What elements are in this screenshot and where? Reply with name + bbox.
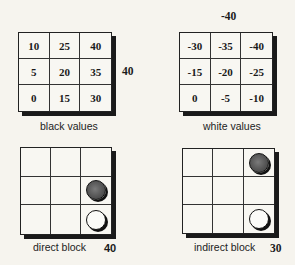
black-value-cell: 20 <box>50 59 81 85</box>
direct-block-caption: direct block <box>33 241 86 253</box>
board-cell <box>183 149 213 177</box>
white-values-caption: white values <box>203 120 261 132</box>
board-cell <box>213 149 243 177</box>
indirect-block-caption: indirect block <box>194 241 255 253</box>
black-value-cell: 35 <box>80 59 111 85</box>
white-value-cell: 0 <box>180 85 211 111</box>
board-cell <box>81 205 111 234</box>
board-cell <box>81 177 111 206</box>
board-cell <box>51 177 81 206</box>
white-stone-icon <box>249 209 269 229</box>
white-value-cell: -35 <box>211 33 242 59</box>
board-cell <box>21 177 51 206</box>
white-values-top-score: -40 <box>221 10 236 22</box>
black-values-caption: black values <box>40 120 98 132</box>
direct-block-board <box>20 147 112 235</box>
white-value-cell: -10 <box>241 85 272 111</box>
black-value-cell: 25 <box>50 33 81 59</box>
white-value-cell: -40 <box>241 33 272 59</box>
board-cell <box>244 149 274 177</box>
black-values-grid: 10 25 40 5 20 35 0 15 30 <box>18 32 112 112</box>
board-cell <box>21 148 51 177</box>
black-value-cell: 15 <box>50 85 81 111</box>
board-cell <box>244 177 274 205</box>
board-cell <box>213 205 243 233</box>
board-cell <box>244 205 274 233</box>
board-cell <box>183 205 213 233</box>
black-stone-icon <box>86 180 106 200</box>
indirect-block-board <box>182 148 275 234</box>
board-cell <box>21 205 51 234</box>
white-stone-icon <box>86 210 106 230</box>
black-stone-icon <box>249 153 269 173</box>
white-value-cell: -30 <box>180 33 211 59</box>
white-value-cell: -25 <box>241 59 272 85</box>
black-value-cell: 0 <box>19 85 50 111</box>
direct-block-score: 40 <box>104 242 116 254</box>
board-cell <box>51 205 81 234</box>
black-value-cell: 10 <box>19 33 50 59</box>
white-value-cell: -20 <box>211 59 242 85</box>
black-values-side-score: 40 <box>122 65 134 77</box>
board-cell <box>81 148 111 177</box>
white-values-grid: -30 -35 -40 -15 -20 -25 0 -5 -10 <box>179 32 273 112</box>
black-value-cell: 40 <box>80 33 111 59</box>
indirect-block-score: 30 <box>270 242 282 254</box>
board-cell <box>183 177 213 205</box>
board-cell <box>51 148 81 177</box>
black-value-cell: 30 <box>80 85 111 111</box>
board-cell <box>213 177 243 205</box>
black-value-cell: 5 <box>19 59 50 85</box>
white-value-cell: -15 <box>180 59 211 85</box>
white-value-cell: -5 <box>211 85 242 111</box>
